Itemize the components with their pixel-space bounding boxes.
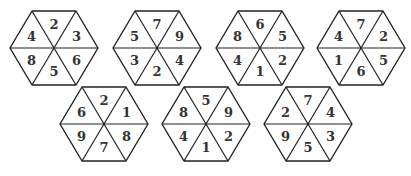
segment-number-lower-right: 5 (379, 53, 388, 68)
hexagon-2: 794235 (113, 11, 201, 85)
segment-number-bottom: 7 (99, 140, 108, 155)
hexagon-7: 743592 (264, 87, 352, 161)
segment-number-upper-left: 2 (281, 105, 290, 120)
segment-number-top: 5 (201, 93, 210, 108)
segment-number-lower-left: 1 (334, 53, 343, 68)
segment-number-upper-left: 6 (77, 105, 86, 120)
segment-number-top: 2 (99, 93, 108, 108)
segment-number-upper-right: 2 (379, 29, 388, 44)
segment-number-lower-left: 4 (179, 129, 188, 144)
segment-number-upper-left: 4 (334, 29, 343, 44)
segment-number-lower-right: 8 (122, 129, 131, 144)
segment-number-lower-left: 9 (77, 129, 86, 144)
segment-number-upper-left: 8 (233, 29, 242, 44)
segment-number-top: 7 (152, 17, 161, 32)
segment-number-upper-right: 3 (72, 29, 81, 44)
segment-number-top: 7 (356, 17, 365, 32)
segment-number-upper-left: 4 (27, 29, 36, 44)
segment-number-bottom: 1 (201, 140, 210, 155)
segment-number-upper-right: 1 (122, 105, 131, 120)
segment-number-top: 2 (49, 17, 58, 32)
segment-number-bottom: 6 (356, 64, 365, 79)
segment-number-lower-right: 4 (175, 53, 184, 68)
segment-number-lower-left: 4 (233, 53, 242, 68)
segment-number-lower-left: 8 (27, 53, 36, 68)
segment-number-lower-right: 2 (224, 129, 233, 144)
segment-number-bottom: 5 (303, 140, 312, 155)
segment-number-lower-right: 6 (72, 53, 81, 68)
hexagon-puzzle-diagram: 2365847942356521487256142187965921487435… (0, 0, 411, 176)
segment-number-upper-right: 5 (278, 29, 287, 44)
hexagon-4: 725614 (317, 11, 405, 85)
segment-number-lower-right: 2 (278, 53, 287, 68)
segment-number-bottom: 5 (49, 64, 58, 79)
segment-number-top: 7 (303, 93, 312, 108)
segment-number-upper-right: 4 (326, 105, 335, 120)
segment-number-bottom: 1 (255, 64, 264, 79)
segment-number-upper-left: 5 (130, 29, 139, 44)
segment-number-upper-right: 9 (224, 105, 233, 120)
segment-number-upper-left: 8 (179, 105, 188, 120)
hexagon-6: 592148 (162, 87, 250, 161)
hexagon-1: 236584 (10, 11, 98, 85)
segment-number-lower-left: 9 (281, 129, 290, 144)
segment-number-lower-right: 3 (326, 129, 335, 144)
hexagon-5: 218796 (60, 87, 148, 161)
segment-number-bottom: 2 (152, 64, 161, 79)
segment-number-lower-left: 3 (130, 53, 139, 68)
hexagon-group: 2365847942356521487256142187965921487435… (10, 11, 405, 161)
segment-number-top: 6 (255, 17, 264, 32)
hexagon-3: 652148 (216, 11, 304, 85)
segment-number-upper-right: 9 (175, 29, 184, 44)
